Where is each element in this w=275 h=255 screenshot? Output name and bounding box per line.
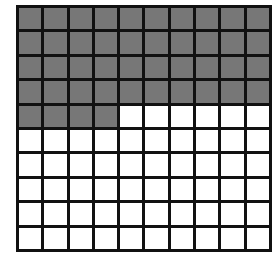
- unshaded-cell: [145, 154, 167, 175]
- unshaded-cell: [70, 130, 92, 151]
- unshaded-cell: [70, 228, 92, 249]
- unshaded-cell: [171, 130, 193, 151]
- unshaded-cell: [120, 179, 142, 200]
- shaded-cell: [145, 32, 167, 53]
- unshaded-cell: [44, 228, 66, 249]
- shaded-cell: [44, 106, 66, 127]
- unshaded-cell: [70, 179, 92, 200]
- unshaded-cell: [171, 228, 193, 249]
- shaded-cell: [247, 57, 269, 78]
- unshaded-cell: [221, 203, 243, 224]
- unshaded-cell: [19, 179, 41, 200]
- unshaded-cell: [171, 106, 193, 127]
- shaded-cell: [95, 32, 117, 53]
- shaded-cell: [120, 57, 142, 78]
- unshaded-cell: [171, 154, 193, 175]
- unshaded-cell: [19, 130, 41, 151]
- shaded-cell: [95, 106, 117, 127]
- unshaded-cell: [247, 203, 269, 224]
- unshaded-cell: [44, 179, 66, 200]
- shaded-cell: [95, 57, 117, 78]
- unshaded-cell: [145, 130, 167, 151]
- unshaded-cell: [247, 228, 269, 249]
- shaded-cell: [70, 57, 92, 78]
- shaded-cell: [19, 81, 41, 102]
- unshaded-cell: [44, 130, 66, 151]
- shaded-cell: [221, 8, 243, 29]
- unshaded-cell: [19, 154, 41, 175]
- unshaded-cell: [70, 203, 92, 224]
- shaded-cell: [247, 32, 269, 53]
- shaded-cell: [44, 57, 66, 78]
- unshaded-cell: [145, 106, 167, 127]
- unshaded-cell: [221, 106, 243, 127]
- shaded-cell: [44, 81, 66, 102]
- shaded-cell: [70, 81, 92, 102]
- unshaded-cell: [44, 203, 66, 224]
- shaded-cell: [70, 106, 92, 127]
- unshaded-cell: [221, 179, 243, 200]
- hundred-grid: [16, 5, 272, 252]
- unshaded-cell: [196, 228, 218, 249]
- unshaded-cell: [171, 203, 193, 224]
- shaded-cell: [120, 32, 142, 53]
- unshaded-cell: [171, 179, 193, 200]
- unshaded-cell: [19, 203, 41, 224]
- unshaded-cell: [196, 179, 218, 200]
- shaded-cell: [145, 81, 167, 102]
- unshaded-cell: [145, 203, 167, 224]
- shaded-cell: [247, 81, 269, 102]
- unshaded-cell: [95, 228, 117, 249]
- shaded-cell: [196, 81, 218, 102]
- unshaded-cell: [95, 130, 117, 151]
- unshaded-cell: [196, 106, 218, 127]
- unshaded-cell: [196, 203, 218, 224]
- unshaded-cell: [145, 179, 167, 200]
- shaded-cell: [120, 81, 142, 102]
- unshaded-cell: [95, 203, 117, 224]
- shaded-cell: [19, 32, 41, 53]
- unshaded-cell: [145, 228, 167, 249]
- shaded-cell: [145, 57, 167, 78]
- shaded-cell: [70, 8, 92, 29]
- unshaded-cell: [196, 130, 218, 151]
- unshaded-cell: [120, 106, 142, 127]
- unshaded-cell: [221, 154, 243, 175]
- unshaded-cell: [44, 154, 66, 175]
- shaded-cell: [171, 8, 193, 29]
- shaded-cell: [95, 81, 117, 102]
- unshaded-cell: [247, 106, 269, 127]
- unshaded-cell: [120, 203, 142, 224]
- unshaded-cell: [247, 130, 269, 151]
- shaded-cell: [95, 8, 117, 29]
- shaded-cell: [196, 32, 218, 53]
- unshaded-cell: [120, 228, 142, 249]
- unshaded-cell: [247, 154, 269, 175]
- unshaded-cell: [70, 154, 92, 175]
- unshaded-cell: [120, 130, 142, 151]
- unshaded-cell: [95, 179, 117, 200]
- shaded-cell: [196, 8, 218, 29]
- unshaded-cell: [247, 179, 269, 200]
- unshaded-cell: [19, 228, 41, 249]
- shaded-cell: [196, 57, 218, 78]
- shaded-cell: [221, 81, 243, 102]
- shaded-cell: [120, 8, 142, 29]
- shaded-cell: [44, 32, 66, 53]
- shaded-cell: [171, 32, 193, 53]
- shaded-cell: [145, 8, 167, 29]
- unshaded-cell: [196, 154, 218, 175]
- shaded-cell: [19, 57, 41, 78]
- shaded-cell: [221, 32, 243, 53]
- shaded-cell: [171, 81, 193, 102]
- shaded-cell: [171, 57, 193, 78]
- shaded-cell: [19, 8, 41, 29]
- shaded-cell: [44, 8, 66, 29]
- shaded-cell: [19, 106, 41, 127]
- shaded-cell: [221, 57, 243, 78]
- unshaded-cell: [95, 154, 117, 175]
- unshaded-cell: [221, 228, 243, 249]
- shaded-cell: [70, 32, 92, 53]
- shaded-cell: [247, 8, 269, 29]
- unshaded-cell: [120, 154, 142, 175]
